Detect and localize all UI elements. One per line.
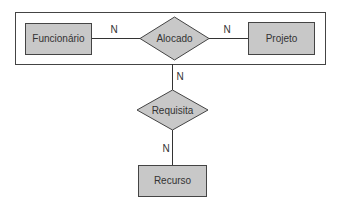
entity-recurso[interactable]: Recurso bbox=[139, 166, 207, 197]
entity-projeto-label: Projeto bbox=[266, 33, 298, 44]
cardinality-requisita-recurso: N bbox=[162, 143, 169, 154]
entity-funcionario[interactable]: Funcionário bbox=[26, 24, 92, 55]
relationship-alocado-label: Alocado bbox=[156, 33, 193, 44]
cardinality-funcionario-alocado: N bbox=[110, 24, 117, 35]
entity-funcionario-label: Funcionário bbox=[32, 33, 85, 44]
entity-recurso-label: Recurso bbox=[154, 175, 192, 186]
relationship-requisita-label: Requisita bbox=[152, 105, 194, 116]
cardinality-aggregation-requisita: N bbox=[176, 71, 183, 82]
entity-projeto[interactable]: Projeto bbox=[249, 23, 315, 55]
cardinality-alocado-projeto: N bbox=[223, 24, 230, 35]
er-diagram: Funcionário Alocado Projeto Requisita Re… bbox=[0, 0, 337, 204]
relationship-requisita[interactable]: Requisita bbox=[137, 90, 208, 130]
